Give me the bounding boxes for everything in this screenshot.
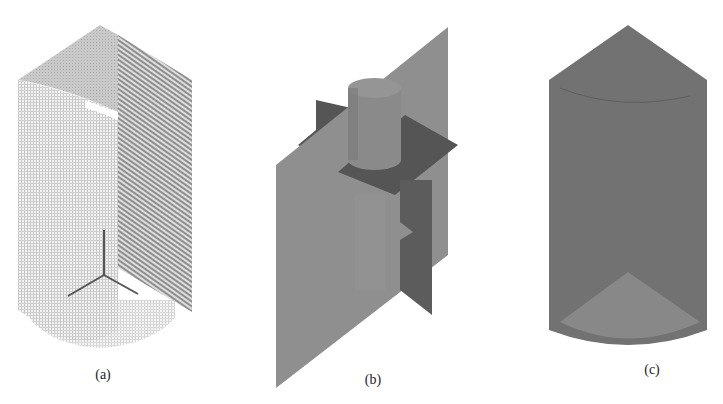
- shaft: [355, 195, 385, 290]
- mesh-baffle-plane: [118, 35, 192, 312]
- vertical-baffle-plate: [400, 180, 432, 315]
- panel-c-solid: [549, 25, 707, 345]
- panel-b-label: (b): [353, 372, 393, 388]
- cylinder-hub: [348, 78, 401, 170]
- panel-c-label: (c): [632, 362, 672, 378]
- panel-a-label: (a): [83, 367, 123, 383]
- figure-canvas: [0, 0, 723, 404]
- mesh-bottom: [30, 300, 175, 348]
- panel-a-mesh: [18, 25, 192, 348]
- panel-b-components: [276, 27, 458, 388]
